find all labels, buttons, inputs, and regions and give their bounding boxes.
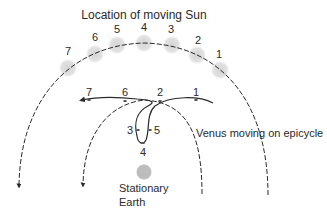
sun-glow-icon xyxy=(58,58,78,78)
venus-epicycle-path xyxy=(82,97,213,143)
sun-positions: 7654321 xyxy=(58,21,230,80)
venus-position-label: 2 xyxy=(157,86,163,98)
venus-position-label: 5 xyxy=(154,124,160,136)
venus-dot-icon xyxy=(124,100,127,102)
venus-position-label: 1 xyxy=(193,86,199,98)
earth-label-line2: Earth xyxy=(119,196,145,208)
sun-position-label: 2 xyxy=(195,34,201,46)
venus-dot-icon xyxy=(88,99,91,101)
sun-position-label: 1 xyxy=(216,48,222,60)
venus-position-label: 7 xyxy=(86,86,92,98)
sun-title: Location of moving Sun xyxy=(81,8,206,22)
sun-glow-icon xyxy=(210,60,230,80)
sun-glow-icon xyxy=(85,44,105,64)
earth-icon xyxy=(137,165,152,180)
geocentric-venus-diagram: 7654321 7621354 Location of moving Sun V… xyxy=(0,0,327,213)
sun-position-label: 7 xyxy=(65,45,71,57)
venus-dot-icon xyxy=(149,129,152,131)
sun-position-label: 4 xyxy=(141,21,147,33)
venus-position-label: 6 xyxy=(122,86,128,98)
earth-label-line1: Stationary xyxy=(119,182,169,194)
venus-dot-icon xyxy=(195,99,198,101)
venus-label: Venus moving on epicycle xyxy=(196,127,323,139)
venus-dot-icon xyxy=(142,142,145,144)
sun-position-label: 3 xyxy=(168,23,174,35)
venus-position-label: 3 xyxy=(127,124,133,136)
venus-dot-icon xyxy=(159,100,162,102)
venus-position-label: 4 xyxy=(140,146,146,158)
sun-position-label: 6 xyxy=(92,31,98,43)
venus-dot-icon xyxy=(137,129,140,131)
sun-position-label: 5 xyxy=(114,23,120,35)
